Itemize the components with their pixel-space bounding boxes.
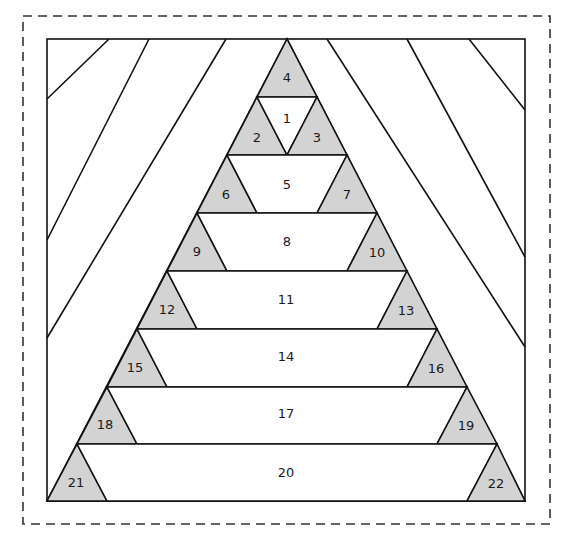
- label-12: 12: [159, 302, 176, 317]
- label-10: 10: [369, 245, 386, 260]
- quilt-block-diagram: 4 1 2 3 5 6 7 8 9 10 11 12 13 14 15 16 1…: [0, 0, 565, 540]
- label-7: 7: [343, 187, 351, 202]
- label-13: 13: [398, 303, 415, 318]
- label-22: 22: [488, 476, 505, 491]
- label-19: 19: [458, 418, 475, 433]
- label-15: 15: [127, 360, 144, 375]
- label-9: 9: [193, 244, 201, 259]
- label-21: 21: [68, 475, 85, 490]
- label-5: 5: [283, 177, 291, 192]
- label-1: 1: [283, 111, 291, 126]
- label-17: 17: [278, 406, 295, 421]
- label-8: 8: [283, 234, 291, 249]
- label-2: 2: [253, 130, 261, 145]
- label-16: 16: [428, 361, 445, 376]
- label-14: 14: [278, 349, 295, 364]
- label-3: 3: [313, 130, 321, 145]
- label-20: 20: [278, 465, 295, 480]
- label-18: 18: [97, 417, 114, 432]
- label-11: 11: [278, 292, 295, 307]
- label-6: 6: [222, 187, 230, 202]
- label-4: 4: [283, 70, 291, 85]
